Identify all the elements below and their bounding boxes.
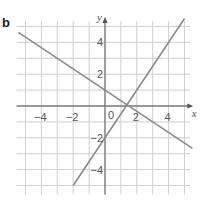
origin-label: 0 <box>108 109 114 121</box>
y-tick-label: 4 <box>97 36 103 48</box>
y-axis-label: y <box>96 11 102 23</box>
series-line-b <box>73 19 184 186</box>
grid <box>17 21 190 194</box>
x-axis-label: x <box>191 107 197 119</box>
axes <box>17 17 194 194</box>
x-tick-label: −2 <box>66 111 79 123</box>
y-tick-label: −2 <box>90 132 103 144</box>
y-axis-arrow-icon <box>103 17 108 23</box>
x-tick-label: 2 <box>133 111 139 123</box>
x-tick-label: 4 <box>165 111 171 123</box>
coordinate-graph: b −4−22442−2−40xy <box>0 0 204 206</box>
y-tick-label: −4 <box>90 164 103 176</box>
y-tick-label: 2 <box>97 68 103 80</box>
x-tick-label: −4 <box>34 111 47 123</box>
part-label: b <box>2 15 10 30</box>
